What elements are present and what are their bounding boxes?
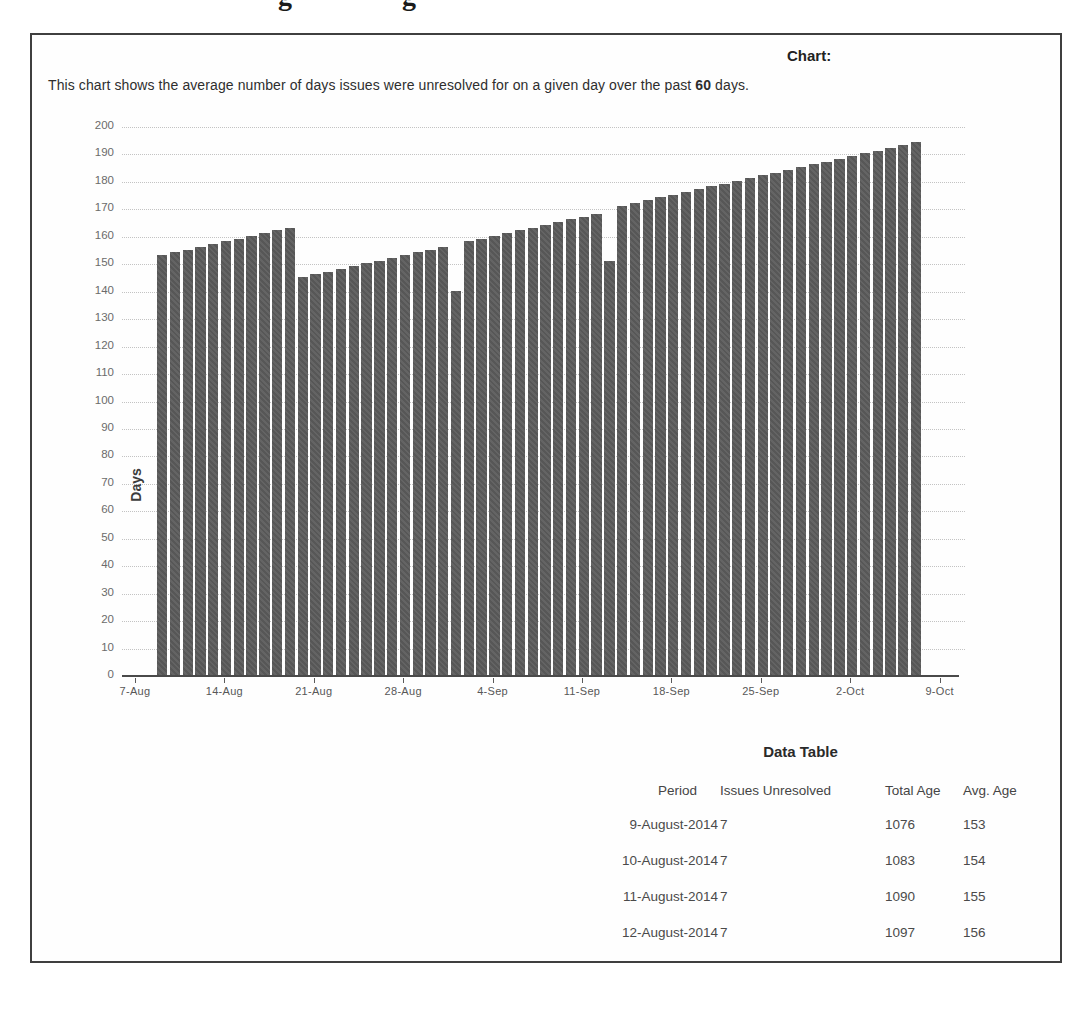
bar xyxy=(246,236,256,675)
bar xyxy=(643,200,653,675)
table-row: 9-August-201471076153 xyxy=(559,806,1042,842)
gridline-190 xyxy=(122,154,965,155)
bar xyxy=(438,247,448,675)
data-table: Period Issues Unresolved Total Age Avg. … xyxy=(559,774,1042,950)
issues-unresolved-cell: 7 xyxy=(719,878,884,914)
chart-description-suffix: days. xyxy=(711,77,749,93)
period-cell: 12-August-2014 xyxy=(559,914,719,950)
table-row: 11-August-201471090155 xyxy=(559,878,1042,914)
y-tick-label-170: 170 xyxy=(64,201,114,213)
y-tick-label-140: 140 xyxy=(64,284,114,296)
x-tick-label-14-Aug: 14-Aug xyxy=(191,685,257,697)
total-age-cell: 1076 xyxy=(884,806,962,842)
x-tick-mark-9-Oct xyxy=(940,678,941,683)
y-tick-label-60: 60 xyxy=(64,503,114,515)
bar xyxy=(655,197,665,675)
x-tick-label-18-Sep: 18-Sep xyxy=(638,685,704,697)
bar xyxy=(579,217,589,675)
bar xyxy=(349,266,359,675)
bar xyxy=(847,156,857,675)
data-table-header-row: Period Issues Unresolved Total Age Avg. … xyxy=(559,774,1042,806)
x-tick-label-7-Aug: 7-Aug xyxy=(102,685,168,697)
bar xyxy=(208,244,218,675)
bar xyxy=(259,233,269,675)
x-axis-line xyxy=(122,675,959,677)
bar xyxy=(323,272,333,676)
y-tick-label-30: 30 xyxy=(64,586,114,598)
clipped-letter: g xyxy=(402,0,416,12)
column-header-total-age: Total Age xyxy=(884,774,962,806)
bar xyxy=(821,162,831,675)
bar xyxy=(873,151,883,675)
bar xyxy=(796,167,806,675)
column-header-avg-age: Avg. Age xyxy=(962,774,1042,806)
bar xyxy=(540,225,550,675)
x-tick-mark-14-Aug xyxy=(224,678,225,683)
bar xyxy=(783,170,793,675)
column-header-period: Period xyxy=(559,774,719,806)
x-tick-label-21-Aug: 21-Aug xyxy=(281,685,347,697)
table-row: 10-August-201471083154 xyxy=(559,842,1042,878)
bar xyxy=(451,291,461,675)
bar xyxy=(911,142,921,675)
bar xyxy=(157,255,167,675)
bar xyxy=(694,189,704,675)
x-tick-mark-2-Oct xyxy=(850,678,851,683)
avg-age-cell: 154 xyxy=(962,842,1042,878)
x-tick-mark-18-Sep xyxy=(671,678,672,683)
bar xyxy=(285,228,295,675)
bar xyxy=(502,233,512,675)
issues-unresolved-cell: 7 xyxy=(719,914,884,950)
bar xyxy=(809,164,819,675)
bar xyxy=(834,159,844,675)
total-age-cell: 1097 xyxy=(884,914,962,950)
bar xyxy=(336,269,346,675)
gridline-200 xyxy=(122,127,965,128)
data-table-title: Data Table xyxy=(559,743,1042,760)
y-tick-label-190: 190 xyxy=(64,146,114,158)
x-tick-label-11-Sep: 11-Sep xyxy=(549,685,615,697)
x-tick-label-2-Oct: 2-Oct xyxy=(817,685,883,697)
y-tick-label-0: 0 xyxy=(64,668,114,680)
issues-unresolved-cell: 7 xyxy=(719,806,884,842)
x-tick-label-9-Oct: 9-Oct xyxy=(907,685,973,697)
table-row: 12-August-201471097156 xyxy=(559,914,1042,950)
avg-age-cell: 155 xyxy=(962,878,1042,914)
x-tick-label-25-Sep: 25-Sep xyxy=(728,685,794,697)
bar xyxy=(183,250,193,675)
scanned-report-page: { "page": { "clipped_heading_fragments":… xyxy=(0,0,1085,1014)
bar xyxy=(464,241,474,675)
period-cell: 10-August-2014 xyxy=(559,842,719,878)
bar xyxy=(195,247,205,675)
issues-unresolved-cell: 7 xyxy=(719,842,884,878)
avg-age-cell: 153 xyxy=(962,806,1042,842)
bar xyxy=(885,148,895,675)
y-tick-label-160: 160 xyxy=(64,229,114,241)
bar xyxy=(630,203,640,675)
bar xyxy=(860,153,870,675)
bar xyxy=(566,219,576,675)
bar xyxy=(387,258,397,675)
bar xyxy=(898,145,908,675)
bar xyxy=(413,252,423,675)
y-tick-label-120: 120 xyxy=(64,339,114,351)
bar xyxy=(681,192,691,675)
bar xyxy=(770,173,780,675)
y-tick-label-90: 90 xyxy=(64,421,114,433)
chart-section-label: Chart: xyxy=(787,47,831,64)
y-tick-label-130: 130 xyxy=(64,311,114,323)
x-tick-label-28-Aug: 28-Aug xyxy=(370,685,436,697)
chart-description: This chart shows the average number of d… xyxy=(48,77,749,93)
bar xyxy=(425,250,435,675)
bar xyxy=(221,241,231,675)
y-tick-label-200: 200 xyxy=(64,119,114,131)
chart-description-days-count: 60 xyxy=(695,77,711,93)
bar xyxy=(400,255,410,675)
bar xyxy=(591,214,601,675)
y-tick-label-10: 10 xyxy=(64,641,114,653)
column-header-issues-unresolved: Issues Unresolved xyxy=(719,774,884,806)
x-tick-mark-7-Aug xyxy=(135,678,136,683)
y-axis-title: Days xyxy=(128,455,148,515)
y-tick-label-100: 100 xyxy=(64,394,114,406)
bar xyxy=(719,184,729,675)
